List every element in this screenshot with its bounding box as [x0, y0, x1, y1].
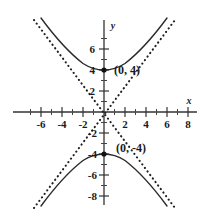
y-tick-label--8: -8: [88, 190, 98, 202]
x-tick-labels: -6 -4 -2 2 4 6 8: [36, 118, 191, 130]
y-tick-labels: 6 4 2 -2 -4 -6 -8: [88, 43, 98, 202]
y-axis-label: y: [110, 20, 116, 31]
x-tick-label--4: -4: [57, 118, 67, 130]
point-label-top: (0, 4): [114, 63, 140, 77]
y-tick-label-2: 2: [90, 85, 96, 97]
hyperbola-graph-figure: -6 -4 -2 2 4 6 8 6 4 2 -2 -4 -6 -8 y x (…: [0, 0, 205, 220]
y-tick-label--6: -6: [88, 169, 98, 181]
x-tick-label-2: 2: [122, 118, 128, 130]
y-tick-label-4: 4: [90, 64, 96, 76]
y-tick-label-6: 6: [90, 43, 96, 55]
y-tick-label--4: -4: [88, 148, 98, 160]
x-tick-label-8: 8: [185, 118, 191, 130]
x-tick-label--6: -6: [36, 118, 46, 130]
x-tick-label-6: 6: [164, 118, 170, 130]
y-tick-label--2: -2: [88, 127, 98, 139]
plot-canvas: -6 -4 -2 2 4 6 8 6 4 2 -2 -4 -6 -8 y x (…: [0, 0, 205, 220]
point-annotations: (0, 4) (0, -4): [114, 63, 146, 155]
x-axis-label: x: [186, 95, 192, 106]
vertex-dot-bottom: [101, 151, 106, 156]
x-tick-label-4: 4: [143, 118, 149, 130]
point-label-bottom: (0, -4): [116, 141, 146, 155]
vertex-dot-top: [101, 67, 106, 72]
x-tick-label--2: -2: [78, 118, 88, 130]
